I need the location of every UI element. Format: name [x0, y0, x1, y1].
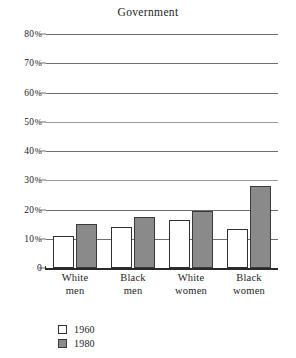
legend-entry-1980: 1980 — [58, 336, 95, 350]
x-axis-category-labels: WhitemenBlackmenWhitewomenBlackwomen — [46, 272, 278, 306]
x-axis-baseline — [46, 268, 278, 270]
bar-1960-black-men — [111, 227, 132, 268]
bar-1980-white-men — [76, 224, 97, 268]
y-tick-label-70: 70% — [2, 58, 42, 68]
chart-legend: 19601980 — [58, 322, 95, 350]
x-label-line1: Black — [120, 272, 146, 283]
gray-square-swatch — [58, 339, 67, 348]
y-axis-labels: 80%70%60%50%40%30%20%10%0 — [0, 34, 42, 268]
bar-1960-white-women — [169, 220, 190, 268]
hollow-square-swatch — [58, 325, 67, 334]
y-tick-label-30: 30% — [2, 175, 42, 185]
bar-1980-black-women — [250, 186, 271, 268]
legend-entry-1960: 1960 — [58, 322, 95, 336]
y-axis-zero-stub — [45, 266, 46, 270]
x-label-white-women: Whitewomen — [162, 272, 220, 297]
x-label-line2: men — [104, 285, 162, 298]
chart-title: Government — [0, 6, 296, 18]
x-label-line2: women — [220, 285, 278, 298]
bar-group — [104, 34, 162, 268]
y-tick-label-60: 60% — [2, 88, 42, 98]
bar-1960-black-women — [227, 229, 248, 268]
x-label-line2: men — [46, 285, 104, 298]
y-tick-label-0: 0 — [2, 263, 42, 273]
y-tick-label-50: 50% — [2, 117, 42, 127]
x-label-line2: women — [162, 285, 220, 298]
x-label-line1: White — [62, 272, 89, 283]
x-label-black-women: Blackwomen — [220, 272, 278, 297]
x-label-white-men: Whitemen — [46, 272, 104, 297]
legend-label: 1980 — [74, 338, 95, 349]
y-tick-label-80: 80% — [2, 29, 42, 39]
x-label-black-men: Blackmen — [104, 272, 162, 297]
bar-group — [162, 34, 220, 268]
y-tick-label-20: 20% — [2, 205, 42, 215]
bar-group — [46, 34, 104, 268]
x-label-line1: Black — [236, 272, 262, 283]
chart-figure: Government 80%70%60%50%40%30%20%10%0 Whi… — [0, 0, 296, 358]
bar-1980-black-men — [134, 217, 155, 268]
y-tick-label-10: 10% — [2, 234, 42, 244]
bar-group — [220, 34, 278, 268]
bar-1960-white-men — [53, 236, 74, 268]
y-tick-label-40: 40% — [2, 146, 42, 156]
x-label-line1: White — [178, 272, 205, 283]
legend-label: 1960 — [74, 324, 95, 335]
bar-1980-white-women — [192, 211, 213, 268]
bar-groups — [46, 34, 278, 268]
